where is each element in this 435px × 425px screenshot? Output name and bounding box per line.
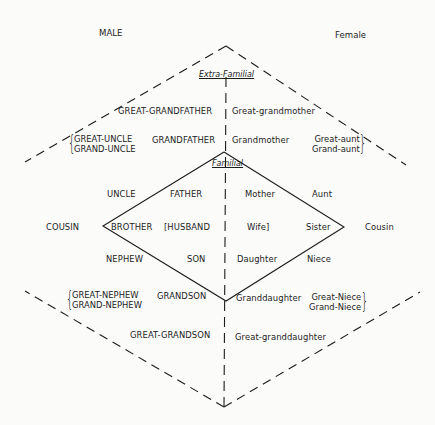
great-niece-group: } Great-Niece Grand-Niece xyxy=(309,293,361,312)
gender-divider-line xyxy=(224,77,226,407)
close-brace: } xyxy=(359,132,366,154)
open-brace: { xyxy=(68,132,75,154)
familial-label: Familial xyxy=(212,159,243,168)
term-mother: Mother xyxy=(245,189,275,199)
term-niece: Niece xyxy=(307,254,331,264)
extra-familial-boundary xyxy=(25,46,420,407)
term-great-granddaughter: Great-granddaughter xyxy=(235,332,326,342)
term-father: FATHER xyxy=(170,189,202,199)
term-sister: Sister xyxy=(306,222,331,232)
term-great-grandfather: GREAT-GRANDFATHER xyxy=(118,106,212,116)
extra-familial-label: Extra-Familial xyxy=(199,70,254,79)
term-son: SON xyxy=(187,254,205,264)
great-aunt-group: } Great-aunt Grand-aunt xyxy=(312,135,360,154)
term-nephew: NEPHEW xyxy=(106,254,143,264)
term-grandmother: Grandmother xyxy=(232,135,289,145)
term-grand-niece: Grand-Niece xyxy=(309,303,361,313)
close-brace: } xyxy=(361,290,368,312)
term-cousin-male: COUSIN xyxy=(46,222,79,232)
term-granddaughter: Granddaughter xyxy=(236,293,301,303)
term-grandson: GRANDSON xyxy=(157,291,206,301)
open-brace: { xyxy=(66,288,73,310)
term-grand-aunt: Grand-aunt xyxy=(312,145,360,155)
term-grand-uncle: GRAND-UNCLE xyxy=(74,145,136,155)
term-grandfather: GRANDFATHER xyxy=(152,135,215,145)
term-grand-nephew: GRAND-NEPHEW xyxy=(72,301,142,311)
kinship-diagram-lines xyxy=(0,0,435,425)
male-header: MALE xyxy=(99,28,123,38)
term-wife: Wife] xyxy=(247,222,269,232)
term-great-grandson: GREAT-GRANDSON xyxy=(130,330,210,340)
term-aunt: Aunt xyxy=(312,189,332,199)
term-husband: [HUSBAND xyxy=(164,222,210,232)
term-brother: BROTHER xyxy=(111,222,152,232)
female-header: Female xyxy=(335,30,366,40)
great-nephew-group: { GREAT-NEPHEW GRAND-NEPHEW xyxy=(72,291,142,310)
great-uncle-group: { GREAT-UNCLE GRAND-UNCLE xyxy=(74,135,136,154)
term-daughter: Daughter xyxy=(237,254,277,264)
term-uncle: UNCLE xyxy=(107,189,136,199)
term-great-grandmother: Great-grandmother xyxy=(232,106,315,116)
term-cousin-female: Cousin xyxy=(365,222,394,232)
